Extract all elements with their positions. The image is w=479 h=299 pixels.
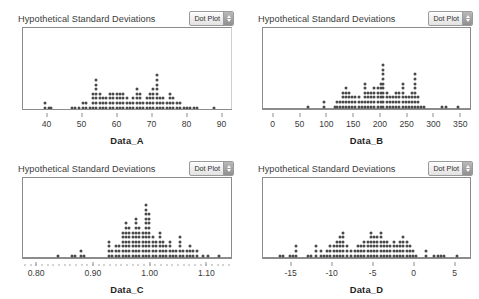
x-axis-ticks xyxy=(262,110,471,117)
x-axis-ticks xyxy=(22,259,232,266)
x-axis-tick-label: 50 xyxy=(77,118,87,130)
x-axis-minor-tick xyxy=(41,264,42,266)
x-axis-tick-label: 90 xyxy=(217,118,227,130)
x-axis-minor-tick xyxy=(183,264,184,266)
x-axis-minor-tick xyxy=(36,264,37,266)
x-axis-tick-label: 250 xyxy=(400,118,414,130)
panel-header: Hypothetical Standard DeviationsDot Plot xyxy=(18,160,234,177)
x-axis-title: Data_C xyxy=(22,284,232,295)
stepper-updown-icon[interactable] xyxy=(462,162,472,175)
data-point xyxy=(382,68,385,71)
data-point xyxy=(392,240,395,243)
data-point xyxy=(202,254,205,257)
x-axis-minor-tick xyxy=(64,264,65,266)
x-axis-minor-tick xyxy=(212,264,213,266)
x-axis-ticks xyxy=(22,110,232,117)
x-axis-tick xyxy=(186,113,187,117)
x-axis-tick xyxy=(151,113,152,117)
data-point xyxy=(408,245,411,248)
plot-frame xyxy=(22,27,232,109)
plot-type-dropdown[interactable]: Dot Plot xyxy=(428,161,473,176)
data-point xyxy=(135,88,138,91)
x-axis-tick xyxy=(331,262,332,266)
data-point xyxy=(125,97,128,100)
data-point xyxy=(74,254,77,257)
data-point xyxy=(369,231,372,234)
x-axis-tick xyxy=(406,113,407,117)
x-axis-minor-tick xyxy=(104,264,105,266)
data-point xyxy=(148,231,151,234)
plot-type-dropdown[interactable]: Dot Plot xyxy=(189,161,234,176)
x-axis-tick xyxy=(413,262,414,266)
x-axis-tick-label: 50 xyxy=(295,118,305,130)
data-point xyxy=(443,254,446,257)
data-point xyxy=(413,73,416,76)
data-point xyxy=(382,82,385,85)
panel-header: Hypothetical Standard DeviationsDot Plot xyxy=(18,10,234,27)
plot-type-dropdown[interactable]: Dot Plot xyxy=(189,11,234,26)
x-axis-minor-tick xyxy=(149,264,150,266)
panel-header: Hypothetical Standard DeviationsDot Plot xyxy=(258,10,473,27)
panel-title: Hypothetical Standard Deviations xyxy=(258,164,395,174)
data-point xyxy=(155,92,158,95)
data-point xyxy=(85,101,88,104)
data-point xyxy=(155,83,158,86)
x-axis-tick xyxy=(299,113,300,117)
stepper-updown-icon[interactable] xyxy=(223,12,233,25)
x-axis-tick xyxy=(372,262,373,266)
x-axis-minor-tick xyxy=(24,264,25,266)
data-point xyxy=(413,91,416,94)
x-axis-tick-label: 200 xyxy=(373,118,387,130)
x-axis-tick-label: 300 xyxy=(426,118,440,130)
x-axis-minor-tick xyxy=(47,264,48,266)
data-point xyxy=(344,87,347,90)
x-axis-minor-tick xyxy=(229,264,230,266)
data-point xyxy=(295,249,298,252)
data-point xyxy=(405,240,408,243)
data-point xyxy=(416,96,419,99)
data-point xyxy=(218,254,221,257)
x-axis-minor-tick xyxy=(127,264,128,266)
x-axis-title: Data_B xyxy=(262,135,471,146)
data-point xyxy=(95,83,98,86)
data-point xyxy=(206,254,209,257)
x-axis-tick xyxy=(454,262,455,266)
dot-plot-panel-data_c: Hypothetical Standard DeviationsDot Plot… xyxy=(0,150,240,299)
data-point xyxy=(413,77,416,80)
data-point xyxy=(148,226,151,229)
data-point xyxy=(342,236,345,239)
data-point xyxy=(151,236,154,239)
x-axis-tick xyxy=(221,113,222,117)
data-point xyxy=(134,217,137,220)
x-axis-tick-label: 70 xyxy=(147,118,157,130)
stepper-updown-icon[interactable] xyxy=(223,162,233,175)
data-point xyxy=(122,92,125,95)
data-point xyxy=(314,249,317,252)
x-axis-minor-tick xyxy=(217,264,218,266)
x-axis-minor-tick xyxy=(195,264,196,266)
x-axis-minor-tick xyxy=(121,264,122,266)
stepper-updown-icon[interactable] xyxy=(462,12,472,25)
data-point xyxy=(345,245,348,248)
data-point xyxy=(108,245,111,248)
x-axis-minor-tick xyxy=(98,264,99,266)
x-axis-tick-label: 350 xyxy=(453,118,467,130)
x-axis-minor-tick xyxy=(81,264,82,266)
data-point xyxy=(138,92,141,95)
plot-area xyxy=(263,178,470,257)
x-axis-minor-tick xyxy=(109,264,110,266)
x-axis-minor-tick xyxy=(200,264,201,266)
data-point xyxy=(161,240,164,243)
data-point xyxy=(148,217,151,220)
x-axis-minor-tick xyxy=(223,264,224,266)
data-point xyxy=(382,73,385,76)
x-axis-ticks xyxy=(262,259,471,266)
x-axis-tick xyxy=(290,262,291,266)
x-axis-minor-tick xyxy=(70,264,71,266)
data-point xyxy=(319,249,322,252)
data-point xyxy=(178,245,181,248)
plot-area xyxy=(263,28,470,108)
data-point xyxy=(195,254,198,257)
plot-type-dropdown[interactable]: Dot Plot xyxy=(428,11,473,26)
x-axis-tick-labels: 050100150200250300350 xyxy=(262,118,471,130)
